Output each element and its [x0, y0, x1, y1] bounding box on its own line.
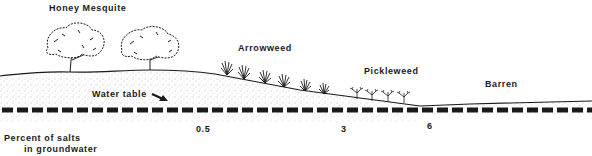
water-table-label: Water table: [92, 89, 147, 99]
arrowweed-icon: [278, 74, 290, 87]
salinity-tick-3: 3: [341, 124, 347, 134]
soil-lower: [0, 114, 420, 122]
zone-label-honey-mesquite: Honey Mesquite: [49, 3, 126, 13]
pickleweed-icon: [397, 91, 410, 103]
arrowweed-icon: [259, 70, 271, 83]
soil-body: [0, 70, 592, 114]
arrowweed-icon: [221, 61, 233, 75]
pickleweed-icon: [381, 90, 394, 102]
salinity-tick-6: 6: [427, 121, 433, 131]
mesquite-tree-icon: [121, 27, 179, 70]
salinity-caption: Percent of salts in groundwater: [4, 133, 97, 155]
arrowweed-icon: [300, 79, 311, 91]
arrowweed-icon: [238, 65, 250, 79]
salinity-tick-0-5: 0.5: [196, 124, 210, 134]
salinity-caption-line2: in groundwater: [4, 144, 97, 155]
salinity-caption-line1: Percent of salts: [4, 133, 81, 143]
salinity-vegetation-diagram: Honey Mesquite Arrowweed Pickleweed Barr…: [0, 0, 592, 156]
zone-label-barren: Barren: [485, 79, 518, 89]
mesquite-tree-icon: [46, 23, 104, 72]
zone-label-pickleweed: Pickleweed: [364, 66, 419, 76]
zone-label-arrowweed: Arrowweed: [238, 43, 292, 53]
